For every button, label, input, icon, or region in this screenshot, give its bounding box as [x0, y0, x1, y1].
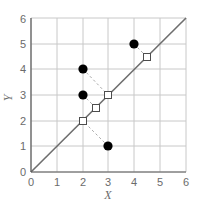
point-3-1 — [103, 141, 112, 150]
y-tick-1: 1 — [20, 140, 26, 152]
y-axis-label: Y — [1, 93, 15, 101]
x-tick-labels: 0 1 2 3 4 5 6 — [28, 176, 189, 188]
chart-figure: 0 1 2 3 4 5 6 0 1 2 3 4 5 6 X Y — [0, 0, 199, 202]
x-tick-5: 5 — [157, 176, 163, 188]
y-tick-4: 4 — [20, 63, 26, 75]
y-tick-0: 0 — [20, 166, 26, 178]
x-tick-1: 1 — [54, 176, 60, 188]
open-square-2-2 — [80, 118, 87, 125]
open-square-3-3 — [105, 92, 112, 99]
point-2-3 — [78, 90, 87, 99]
x-tick-3: 3 — [105, 176, 111, 188]
open-square-4.5-4.5 — [144, 54, 151, 61]
y-tick-6: 6 — [20, 13, 26, 25]
open-square-2.5-2.5 — [93, 105, 100, 112]
y-tick-2: 2 — [20, 115, 26, 127]
scatter-plot: 0 1 2 3 4 5 6 0 1 2 3 4 5 6 X Y — [0, 0, 199, 202]
x-tick-4: 4 — [131, 176, 137, 188]
x-tick-2: 2 — [80, 176, 86, 188]
y-tick-3: 3 — [20, 89, 26, 101]
x-tick-0: 0 — [28, 176, 34, 188]
point-4-5 — [129, 39, 138, 48]
y-tick-labels: 0 1 2 3 4 5 6 — [20, 13, 26, 178]
point-2-4 — [78, 64, 87, 73]
x-tick-6: 6 — [183, 176, 189, 188]
y-tick-5: 5 — [20, 38, 26, 50]
x-axis-label: X — [103, 188, 112, 202]
